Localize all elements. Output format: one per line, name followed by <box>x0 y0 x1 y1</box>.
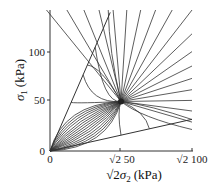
svg-text:σ1(kPa): σ1(kPa) <box>12 59 29 101</box>
y-tick-label-0: 0 <box>40 145 46 157</box>
chart: 0 50 100 0 √2 50 √2 100 √2σ2(kPa) σ1(kPa… <box>0 0 221 194</box>
x-tick-label-2: √2 100 <box>177 153 208 165</box>
x-axis-label: √2σ2(kPa) <box>106 167 162 184</box>
y-tick-label-50: 50 <box>34 94 46 106</box>
x-tick-label-1: √2 50 <box>109 153 135 165</box>
x-tick-label-0: 0 <box>47 153 53 165</box>
y-tick-label-100: 100 <box>29 46 46 58</box>
svg-text:√2σ2(kPa): √2σ2(kPa) <box>106 167 162 184</box>
trajectory-curves <box>47 10 193 151</box>
y-axis-label: σ1(kPa) <box>12 59 29 101</box>
plot-area: 0 50 100 0 √2 50 √2 100 √2σ2(kPa) σ1(kPa… <box>0 0 221 194</box>
